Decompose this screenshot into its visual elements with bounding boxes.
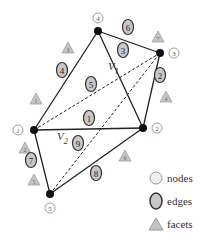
facet-label-7: 7: [157, 36, 160, 42]
node-label-1: 1: [16, 127, 20, 135]
legend-edges: edges: [148, 189, 193, 212]
edge-line-2: [143, 53, 160, 128]
facet-label-6: 6: [124, 155, 127, 161]
legend-nodes-label: nodes: [167, 172, 193, 184]
edge-line-5: [34, 53, 160, 130]
node-dot-4: [94, 27, 102, 35]
legend-facets-label: facets: [167, 218, 193, 230]
edge-label-2: 2: [158, 71, 163, 81]
node-dot-3: [156, 49, 164, 57]
node-label-5: 5: [48, 205, 52, 213]
legend-nodes: nodes: [148, 166, 193, 189]
node-dot-1: [30, 126, 38, 134]
edge-label-1: 1: [87, 114, 92, 124]
edge-label-9: 9: [76, 139, 81, 149]
edge-label-5: 5: [89, 80, 94, 90]
facet-legend-icon: [148, 216, 164, 232]
edge-label-8: 8: [94, 169, 99, 179]
node-label-3: 3: [172, 50, 176, 58]
node-label-2: 2: [155, 125, 159, 133]
volume-label-2: V2: [57, 130, 68, 146]
facet-label-1: 1: [35, 98, 38, 104]
legend-edges-label: edges: [167, 195, 192, 207]
facet-label-3: 3: [67, 47, 70, 53]
legend-facets: facets: [148, 212, 193, 235]
node-dot-2: [139, 124, 147, 132]
legend: nodes edges facets: [148, 166, 193, 235]
edge-legend-icon: [148, 192, 164, 210]
node-label-4: 4: [96, 15, 100, 23]
edge-label-4: 4: [60, 66, 65, 76]
facet-label-5: 5: [33, 179, 36, 185]
edge-label-3: 3: [121, 46, 126, 56]
edge-line-1: [34, 128, 143, 130]
edge-label-7: 7: [29, 156, 34, 166]
facet-label-2: 2: [24, 147, 27, 153]
volume-label-1: V1: [108, 60, 119, 76]
node-dot-5: [46, 190, 54, 198]
edge-label-6: 6: [126, 23, 131, 33]
node-legend-icon: [148, 170, 164, 186]
facet-label-4: 4: [165, 96, 168, 102]
